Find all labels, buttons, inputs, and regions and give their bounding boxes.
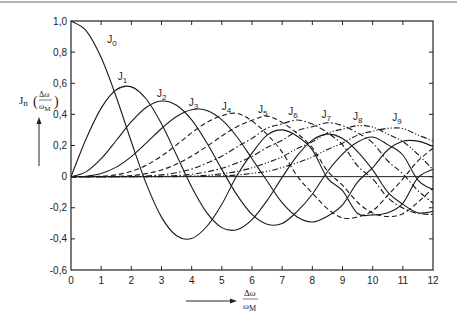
y-label-sub: n [23, 98, 28, 108]
y-tick-label: 1,0 [53, 16, 67, 27]
curve-label-j4: J4 [222, 101, 232, 115]
y-tick-label: 0 [61, 171, 67, 182]
y-tick-label: 0,2 [53, 140, 67, 151]
x-tick-label: 8 [310, 275, 316, 286]
svg-text:Jn: Jn [19, 94, 28, 108]
x-tick-label: 9 [340, 275, 346, 286]
plot-frame [71, 21, 433, 270]
series-line-j3 [71, 109, 433, 222]
x-tick-label: 12 [427, 275, 439, 286]
curve-label-j0: J0 [107, 34, 117, 48]
curve-label-j3: J3 [189, 97, 199, 111]
y-axis-label: Jn ( Δω ωM ) [19, 90, 59, 166]
x-tick-label: 3 [159, 275, 165, 286]
curve-label-j5: J5 [258, 104, 268, 118]
y-tick-label: -0,6 [50, 265, 68, 276]
y-label-numerator: Δω [39, 90, 49, 99]
series-line-j9 [71, 128, 433, 177]
curve-label-j7: J7 [321, 109, 331, 123]
x-tick-label: 2 [129, 275, 135, 286]
y-tick-label: 0,4 [53, 109, 67, 120]
curve-label-j9: J9 [392, 112, 402, 126]
curve-label-j1: J1 [118, 71, 128, 85]
x-tick-label: 1 [98, 275, 104, 286]
y-tick-label: 0,8 [53, 47, 67, 58]
plot-area [71, 21, 433, 239]
x-tick-label: 10 [367, 275, 379, 286]
y-label-denominator: ωM [39, 102, 51, 113]
bessel-chart: 01234567891011121,00,80,60,40,20-0,2-0,4… [0, 0, 457, 326]
x-tick-label: 5 [219, 275, 225, 286]
curve-labels: J0J1J2J3J4J5J6J7J8J9 [107, 34, 402, 127]
series-line-j5 [71, 116, 433, 216]
x-tick-label: 0 [68, 275, 74, 286]
curve-label-j6: J6 [288, 106, 298, 120]
series-line-j7 [71, 123, 433, 203]
y-tick-label: 0,6 [53, 78, 67, 89]
y-tick-label: -0,4 [50, 233, 68, 244]
x-axis-label: Δω ωM [186, 288, 258, 313]
y-label-paren-open: ( [33, 94, 38, 110]
curve-label-j2: J2 [157, 88, 167, 102]
series-line-j8 [71, 126, 433, 177]
curve-label-j8: J8 [353, 111, 363, 125]
y-arrow-head-icon [37, 117, 42, 124]
x-tick-label: 7 [279, 275, 285, 286]
y-label-paren-close: ) [54, 94, 59, 110]
x-tick-label: 11 [398, 275, 409, 286]
x-arrow-head-icon [230, 299, 237, 304]
y-tick-label: -0,2 [50, 202, 68, 213]
x-label-denominator: ωM [243, 301, 256, 313]
x-tick-label: 6 [249, 275, 255, 286]
x-label-numerator: Δω [244, 288, 256, 298]
x-tick-label: 4 [189, 275, 195, 286]
series-line-j2 [71, 101, 433, 225]
